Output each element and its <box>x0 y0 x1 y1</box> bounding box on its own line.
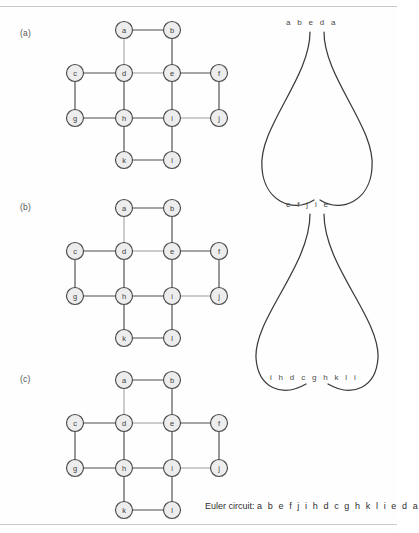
graph-node-c: c <box>67 65 84 82</box>
graph-node-label-c: c <box>73 69 77 78</box>
graph-node-d: d <box>116 243 133 260</box>
graph-node-label-d: d <box>122 69 126 78</box>
euler-circuit-sequence: a b e f j i h d c g h k l i e d a <box>257 501 419 511</box>
graph-node-d: d <box>116 65 133 82</box>
graph-node-label-k: k <box>122 506 126 515</box>
graph-node-k: k <box>116 502 133 519</box>
graph-node-h: h <box>116 288 133 305</box>
loop-paths-layer <box>256 32 378 390</box>
loop-sequence-top: a b e d a <box>286 18 338 27</box>
graph-node-i: i <box>164 460 181 477</box>
graph-node-e: e <box>164 415 181 432</box>
panel-label-c: (c) <box>20 374 31 384</box>
graph-node-j: j <box>211 110 228 127</box>
graph-node-l: l <box>164 330 181 347</box>
graph-node-h: h <box>116 110 133 127</box>
graph-node-l: l <box>164 152 181 169</box>
graph-node-label-g: g <box>73 292 77 301</box>
loop-diagram: a b e d a e f j i e i h d c g h k l i <box>248 18 397 393</box>
graph-node-label-h: h <box>122 464 126 473</box>
graph-node-label-k: k <box>122 156 126 165</box>
graph-node-k: k <box>116 330 133 347</box>
graph-node-b: b <box>164 22 181 39</box>
graph-panel-a: abcdefghijkl <box>50 18 245 178</box>
graph-edges-c <box>75 380 219 510</box>
graph-node-label-e: e <box>170 247 174 256</box>
graph-node-label-h: h <box>122 114 126 123</box>
graph-node-label-j: j <box>217 464 220 473</box>
graph-node-label-h: h <box>122 292 126 301</box>
graph-node-g: g <box>67 288 84 305</box>
graph-node-d: d <box>116 415 133 432</box>
graph-node-label-b: b <box>170 376 174 385</box>
graph-edges-a <box>75 30 219 160</box>
graph-node-i: i <box>164 288 181 305</box>
graph-nodes-c: abcdefghijkl <box>67 372 228 519</box>
graph-node-label-e: e <box>170 419 174 428</box>
graph-node-e: e <box>164 65 181 82</box>
graph-node-a: a <box>116 22 133 39</box>
loop-sequence-bottom: i h d c g h k l i <box>270 373 358 382</box>
graph-node-e: e <box>164 243 181 260</box>
graph-edges-b <box>75 208 219 338</box>
graph-node-j: j <box>211 288 228 305</box>
graph-node-label-c: c <box>73 419 77 428</box>
graph-nodes-a: abcdefghijkl <box>67 22 228 169</box>
page-rule-top <box>0 6 397 7</box>
loop-sequence-middle: e f j i e <box>286 200 330 209</box>
graph-svg-a: abcdefghijkl <box>50 18 245 178</box>
graph-node-b: b <box>164 372 181 389</box>
euler-circuit-caption: Euler circuit: a b e f j i h d c g h k l… <box>205 501 419 511</box>
loop-curve-upper-loop-right <box>320 32 372 205</box>
graph-node-label-g: g <box>73 464 77 473</box>
graph-node-label-b: b <box>170 204 174 213</box>
graph-node-label-j: j <box>217 114 220 123</box>
graph-node-a: a <box>116 372 133 389</box>
graph-node-label-g: g <box>73 114 77 123</box>
graph-node-label-k: k <box>122 334 126 343</box>
graph-node-f: f <box>211 415 228 432</box>
graph-node-g: g <box>67 110 84 127</box>
graph-node-f: f <box>211 243 228 260</box>
panel-label-b: (b) <box>20 202 31 212</box>
graph-node-g: g <box>67 460 84 477</box>
graph-nodes-b: abcdefghijkl <box>67 200 228 347</box>
graph-node-l: l <box>164 502 181 519</box>
graph-node-b: b <box>164 200 181 217</box>
graph-panel-b: abcdefghijkl <box>50 196 245 356</box>
graph-svg-b: abcdefghijkl <box>50 196 245 356</box>
loop-curve-upper-loop-left <box>262 32 314 205</box>
graph-node-c: c <box>67 415 84 432</box>
graph-node-label-e: e <box>170 69 174 78</box>
loop-curve-lower-loop-right <box>324 214 378 390</box>
graph-node-label-d: d <box>122 247 126 256</box>
graph-node-f: f <box>211 65 228 82</box>
graph-node-label-c: c <box>73 247 77 256</box>
graph-node-label-d: d <box>122 419 126 428</box>
graph-node-k: k <box>116 152 133 169</box>
graph-node-a: a <box>116 200 133 217</box>
graph-node-c: c <box>67 243 84 260</box>
graph-node-label-j: j <box>217 292 220 301</box>
loop-curve-lower-loop-left <box>256 214 310 390</box>
graph-node-label-b: b <box>170 26 174 35</box>
euler-circuit-prefix: Euler circuit: <box>205 501 255 511</box>
graph-node-h: h <box>116 460 133 477</box>
graph-node-j: j <box>211 460 228 477</box>
panel-label-a: (a) <box>20 28 31 38</box>
graph-node-i: i <box>164 110 181 127</box>
